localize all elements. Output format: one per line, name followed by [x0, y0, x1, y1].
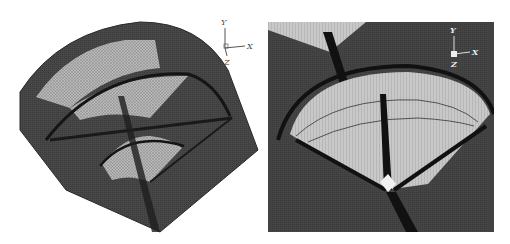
y-axis-label: Y [221, 18, 227, 27]
right-mesh-view: Y X Z [268, 22, 494, 232]
x-axis-label: X [471, 47, 479, 57]
left-mesh-svg: Y X Z [0, 0, 260, 244]
z-axis-label: Z [450, 59, 458, 69]
z-axis-label: Z [223, 58, 230, 67]
left-axis-triad: Y X Z [221, 18, 253, 67]
right-mesh-svg: Y X Z [268, 22, 494, 232]
left-mesh-view: Y X Z [0, 0, 260, 244]
x-axis-label: X [246, 42, 253, 51]
